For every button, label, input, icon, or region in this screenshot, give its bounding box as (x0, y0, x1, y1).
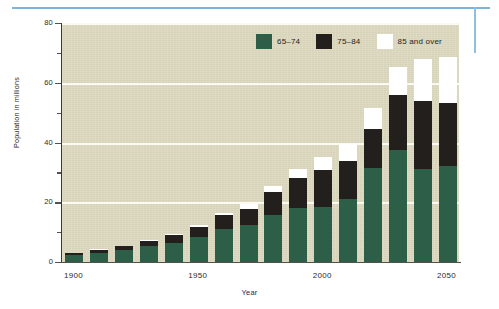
bar-1960 (215, 213, 233, 262)
bar-segment-2020-1 (364, 129, 382, 168)
y-tick-mark-minor-30 (57, 172, 61, 173)
bar-segment-2010-2 (339, 144, 357, 161)
bar-2030 (389, 67, 407, 262)
bar-segment-2020-0 (364, 168, 382, 262)
y-tick-label-60: 60 (44, 79, 53, 87)
bar-segment-1970-0 (240, 225, 258, 262)
bar-segment-1910-0 (90, 253, 108, 262)
x-tick-label-1950: 1950 (188, 271, 207, 280)
legend-swatch-icon-2 (377, 34, 393, 49)
bar-1990 (289, 169, 307, 262)
y-tick-mark-80 (55, 23, 61, 24)
y-tick-mark-20 (55, 202, 61, 203)
bar-2020 (364, 108, 382, 262)
chart-figure: 020406080 Population in millions 1900195… (0, 0, 499, 309)
legend-item-1: 75–84 (316, 34, 360, 49)
bar-segment-2050-2 (439, 57, 457, 103)
bar-segment-1930-0 (140, 246, 158, 262)
bar-2040 (414, 59, 432, 262)
y-tick-label-20: 20 (44, 198, 53, 206)
y-tick-mark-60 (55, 83, 61, 84)
y-tick-mark-0 (55, 262, 61, 263)
bar-segment-1950-0 (190, 237, 208, 262)
bar-1920 (115, 246, 133, 262)
x-tick-label-2050: 2050 (437, 271, 456, 280)
x-axis-title: Year (0, 288, 499, 297)
legend-label-1: 75–84 (337, 37, 360, 46)
bar-segment-1980-1 (264, 192, 282, 215)
bar-2000 (314, 157, 332, 262)
bar-1930 (140, 240, 158, 262)
bar-segment-1970-1 (240, 209, 258, 225)
bar-segment-1940-1 (165, 235, 183, 243)
bar-segment-1990-1 (289, 178, 307, 208)
legend-item-2: 85 and over (377, 34, 442, 49)
legend-label-0: 65–74 (277, 37, 300, 46)
bar-segment-2030-2 (389, 67, 407, 96)
bar-segment-2010-1 (339, 161, 357, 199)
bar-segment-2040-1 (414, 101, 432, 169)
legend-swatch-icon-0 (256, 34, 272, 49)
bar-2050 (439, 57, 457, 262)
plot-area (61, 23, 459, 262)
bar-2010 (339, 144, 357, 262)
bar-segment-2000-2 (314, 157, 332, 170)
bar-segment-1980-0 (264, 215, 282, 262)
y-tick-mark-40 (55, 143, 61, 144)
legend-swatch-icon-1 (316, 34, 332, 49)
bar-segment-1990-2 (289, 169, 307, 178)
y-axis-title: Population in millions (12, 53, 21, 173)
bar-1970 (240, 204, 258, 262)
bar-segment-2020-2 (364, 108, 382, 128)
y-tick-label-80: 80 (44, 19, 53, 27)
bar-segment-1920-0 (115, 250, 133, 262)
bar-segment-1940-0 (165, 243, 183, 262)
bar-segment-1950-1 (190, 227, 208, 237)
bar-segment-2040-2 (414, 59, 432, 102)
gridline-80 (62, 23, 459, 25)
bar-segment-2010-0 (339, 199, 357, 262)
bar-1910 (90, 249, 108, 262)
bar-segment-2050-1 (439, 103, 457, 166)
chart-legend: 65–7475–8485 and over (256, 34, 442, 49)
right-blue-rule (474, 7, 476, 53)
bar-segment-2000-1 (314, 170, 332, 207)
bar-segment-1960-0 (215, 229, 233, 262)
x-tick-label-2000: 2000 (313, 271, 332, 280)
y-tick-label-40: 40 (44, 139, 53, 147)
legend-item-0: 65–74 (256, 34, 300, 49)
y-tick-mark-minor-10 (57, 232, 61, 233)
y-axis: 020406080 (0, 0, 61, 309)
bar-1900 (65, 253, 83, 262)
top-blue-rule (12, 7, 490, 9)
legend-label-2: 85 and over (398, 37, 442, 46)
bar-segment-2030-1 (389, 95, 407, 150)
bar-1980 (264, 186, 282, 262)
y-tick-mark-minor-70 (57, 53, 61, 54)
y-tick-label-0: 0 (49, 258, 53, 266)
bar-segment-2050-0 (439, 166, 457, 262)
bar-segment-2030-0 (389, 150, 407, 262)
bar-segment-1980-2 (264, 186, 282, 193)
bar-segment-1960-1 (215, 215, 233, 229)
bar-segment-2000-0 (314, 207, 332, 262)
bar-1940 (165, 234, 183, 262)
y-tick-mark-minor-50 (57, 113, 61, 114)
x-axis-line (61, 262, 461, 263)
bar-segment-1990-0 (289, 208, 307, 262)
x-tick-label-1900: 1900 (64, 271, 83, 280)
bar-1950 (190, 225, 208, 262)
bar-segment-2040-0 (414, 169, 432, 262)
